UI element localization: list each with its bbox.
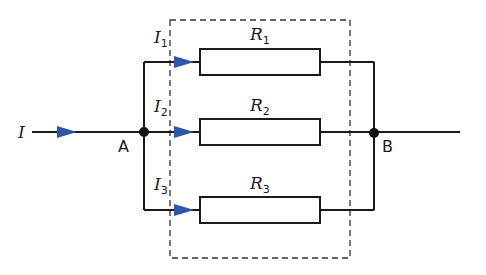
node-b-label: B (382, 137, 393, 156)
branch-1-current-label: I1 (153, 27, 168, 50)
branch-2-current-label: I2 (153, 96, 168, 119)
node-a-dot (139, 127, 149, 137)
node-a-label: A (118, 137, 129, 156)
resistor-3 (200, 197, 320, 223)
resistor-1 (200, 49, 320, 75)
resistor-2 (200, 119, 320, 145)
branch-3-current-label: I3 (153, 174, 168, 197)
branch-1-current-arrow-icon (174, 56, 194, 68)
main-current-label: I (17, 122, 25, 142)
resistor-2-label: R2 (249, 95, 270, 118)
main-current-arrow-icon (57, 126, 77, 138)
branch-3-current-arrow-icon (174, 204, 194, 216)
branch-2-current-arrow-icon (174, 126, 194, 138)
circuit-diagram: I A B I1 I2 I3 R1 R2 R3 (0, 0, 486, 275)
resistor-3-label: R3 (249, 173, 270, 196)
node-b-dot (369, 128, 379, 138)
resistor-1-label: R1 (249, 24, 270, 47)
